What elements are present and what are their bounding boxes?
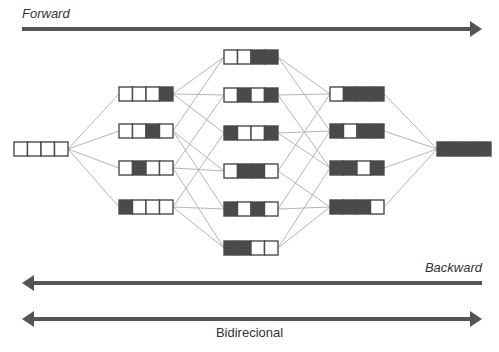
forward-label: Forward (22, 6, 70, 21)
unselected-feature-cell (133, 87, 147, 101)
selected-feature-cell (344, 200, 358, 214)
unselected-feature-cell (224, 50, 238, 64)
lattice-edge (68, 94, 119, 149)
selected-feature-cell (224, 126, 238, 140)
lattice-edge (278, 207, 330, 248)
unselected-feature-cell (224, 88, 238, 102)
selected-feature-cell (119, 200, 133, 214)
selected-feature-cell (357, 87, 371, 101)
feature-subset-node (330, 124, 384, 138)
backward-label: Backward (425, 260, 482, 275)
selected-feature-cell (224, 241, 238, 255)
unselected-feature-cell (238, 126, 252, 140)
unselected-feature-cell (265, 164, 279, 178)
unselected-feature-cell (133, 200, 147, 214)
selected-feature-cell (437, 142, 451, 156)
unselected-feature-cell (14, 142, 28, 156)
feature-subset-node (437, 142, 491, 156)
lattice-nodes (14, 50, 491, 255)
feature-subset-node (330, 200, 384, 214)
unselected-feature-cell (146, 161, 160, 175)
unselected-feature-cell (146, 200, 160, 214)
feature-subset-node (119, 124, 173, 138)
unselected-feature-cell (251, 88, 265, 102)
lattice-edge (173, 94, 224, 133)
lattice-edge (173, 95, 224, 168)
arrowhead-icon (470, 21, 482, 37)
selected-feature-cell (224, 202, 238, 216)
feature-subset-node (224, 88, 278, 102)
unselected-feature-cell (265, 241, 279, 255)
selected-feature-cell (344, 161, 358, 175)
unselected-feature-cell (251, 241, 265, 255)
feature-subset-node (330, 161, 384, 175)
feature-subset-node (224, 50, 278, 64)
selected-feature-cell (371, 161, 385, 175)
selected-feature-cell (464, 142, 478, 156)
lattice-edge (384, 149, 437, 168)
selected-feature-cell (251, 164, 265, 178)
lattice-edge (278, 131, 330, 209)
selected-feature-cell (265, 88, 279, 102)
selected-feature-cell (478, 142, 492, 156)
unselected-feature-cell (146, 87, 160, 101)
selected-feature-cell (357, 124, 371, 138)
selected-feature-cell (357, 200, 371, 214)
selected-feature-cell (133, 161, 147, 175)
feature-subset-node (224, 164, 278, 178)
feature-subset-node (330, 87, 384, 101)
selected-feature-cell (330, 200, 344, 214)
selected-feature-cell (265, 50, 279, 64)
unselected-feature-cell (55, 142, 69, 156)
selected-feature-cell (344, 87, 358, 101)
lattice-edge (278, 94, 330, 95)
backward-arrow (22, 275, 482, 291)
feature-subset-node (119, 200, 173, 214)
selected-feature-cell (371, 124, 385, 138)
forward-arrow (22, 21, 482, 37)
selected-feature-cell (238, 241, 252, 255)
lattice-edge (173, 207, 224, 248)
selected-feature-cell (160, 87, 174, 101)
lattice-edges (68, 57, 437, 248)
selected-feature-cell (251, 50, 265, 64)
unselected-feature-cell (371, 200, 385, 214)
selected-feature-cell (330, 161, 344, 175)
lattice-edge (278, 133, 330, 168)
lattice-edge (173, 133, 224, 207)
lattice-edge (278, 171, 330, 207)
feature-subset-node (14, 142, 68, 156)
arrowhead-icon (22, 275, 34, 291)
lattice-edge (68, 149, 119, 207)
lattice-edge (278, 168, 330, 248)
unselected-feature-cell (238, 202, 252, 216)
unselected-feature-cell (119, 161, 133, 175)
unselected-feature-cell (119, 87, 133, 101)
feature-subset-node (224, 126, 278, 140)
lattice-edge (384, 131, 437, 149)
selected-feature-cell (265, 126, 279, 140)
selected-feature-cell (451, 142, 465, 156)
lattice-edge (68, 131, 119, 149)
selected-feature-cell (251, 202, 265, 216)
unselected-feature-cell (119, 124, 133, 138)
unselected-feature-cell (160, 161, 174, 175)
unselected-feature-cell (28, 142, 42, 156)
feature-subset-node (119, 161, 173, 175)
unselected-feature-cell (160, 124, 174, 138)
unselected-feature-cell (265, 202, 279, 216)
lattice-edge (384, 94, 437, 149)
feature-subset-node (224, 202, 278, 216)
unselected-feature-cell (224, 164, 238, 178)
selected-feature-cell (330, 124, 344, 138)
selected-feature-cell (371, 87, 385, 101)
lattice-edge (278, 57, 330, 94)
unselected-feature-cell (133, 124, 147, 138)
selected-feature-cell (238, 164, 252, 178)
unselected-feature-cell (238, 50, 252, 64)
lattice-edge (173, 131, 224, 171)
bidirectional-label: Bidirecional (0, 325, 499, 340)
lattice-edge (68, 149, 119, 168)
unselected-feature-cell (160, 200, 174, 214)
lattice-edge (173, 57, 224, 94)
